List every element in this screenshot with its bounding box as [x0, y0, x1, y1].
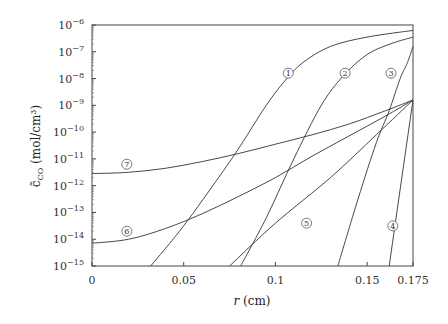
svg-text:3: 3 — [388, 69, 393, 78]
curve-label-1: 1 — [283, 68, 293, 78]
svg-text:5: 5 — [304, 219, 309, 228]
curve-label-4: 4 — [388, 221, 398, 231]
x-tick-label: 0.15 — [355, 274, 380, 287]
y-tick-label: 10−7 — [58, 44, 84, 59]
svg-text:4: 4 — [390, 222, 395, 231]
svg-text:7: 7 — [124, 160, 129, 169]
y-tick-label: 10−10 — [53, 124, 84, 139]
curve-labels-group: 1234567 — [122, 68, 398, 236]
x-tick-label: 0.1 — [267, 274, 285, 287]
curve-label-6: 6 — [122, 226, 132, 236]
y-tick-label: 10−9 — [58, 97, 84, 112]
y-tick-label: 10−8 — [58, 71, 84, 86]
y-axis: 10−610−710−810−910−1010−1110−1210−1310−1… — [53, 17, 96, 273]
x-tick-label: 0 — [89, 274, 96, 287]
curve-label-7: 7 — [122, 159, 132, 169]
y-tick-label: 10−12 — [53, 178, 84, 193]
y-tick-label: 10−14 — [53, 231, 84, 246]
x-tick-label: 0.05 — [171, 274, 196, 287]
curve-label-2: 2 — [340, 68, 350, 78]
y-tick-label: 10−15 — [53, 258, 84, 273]
curve-label-3: 3 — [386, 68, 396, 78]
curve-4 — [389, 100, 413, 266]
curve-5 — [230, 100, 413, 266]
y-tick-label: 10−11 — [53, 151, 84, 166]
y-tick-label: 10−6 — [58, 17, 84, 32]
x-tick-label: 0.175 — [397, 274, 429, 287]
curve-label-5: 5 — [302, 218, 312, 228]
svg-text:1: 1 — [286, 69, 291, 78]
svg-text:6: 6 — [124, 227, 129, 236]
curve-1 — [151, 30, 413, 266]
y-axis-title: c̃CO (mol/cm3) — [29, 105, 45, 187]
svg-text:2: 2 — [343, 69, 348, 78]
y-tick-label: 10−13 — [53, 204, 84, 219]
curves-group — [92, 30, 413, 266]
x-axis-title: r (cm) — [233, 294, 270, 308]
curve-7 — [92, 100, 413, 174]
curve-3 — [338, 46, 413, 266]
concentration-chart: 1234567 10−610−710−810−910−1010−1110−121… — [0, 0, 448, 324]
